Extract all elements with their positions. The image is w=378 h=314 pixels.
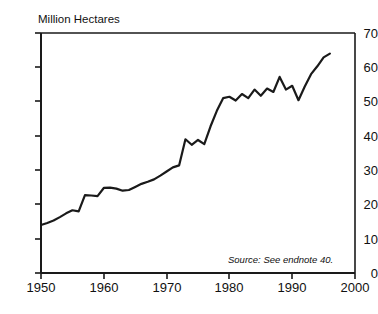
- data-series-line: [41, 54, 330, 225]
- chart-figure: Million Hectares 70 60 50 40 30 20 10 0 …: [0, 0, 378, 314]
- plot-svg: [0, 0, 378, 314]
